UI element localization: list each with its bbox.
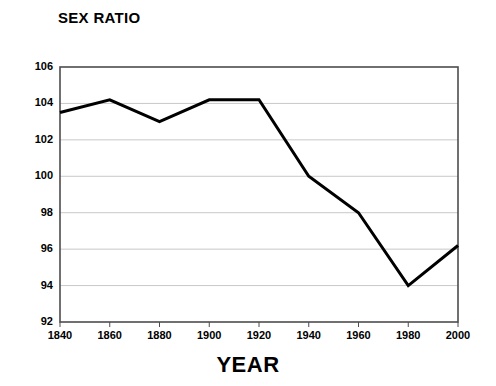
y-tick-label: 104 [19, 96, 53, 108]
x-axis-title: YEAR [0, 352, 496, 378]
x-tick-label: 2000 [436, 329, 480, 341]
data-line-series [60, 100, 458, 286]
x-tick-label: 1940 [287, 329, 331, 341]
x-tick-label: 1960 [337, 329, 381, 341]
series-line-sex-ratio [60, 100, 458, 286]
x-tick-label: 1880 [138, 329, 182, 341]
x-tick-label: 1840 [38, 329, 82, 341]
y-tick-label: 96 [19, 242, 53, 254]
x-tick-label: 1860 [88, 329, 132, 341]
x-tick-label: 1920 [237, 329, 281, 341]
sex-ratio-line-chart: SEX RATIO 10610410210098969492 184018601… [0, 0, 496, 386]
y-tick-label: 94 [19, 279, 53, 291]
gridlines [60, 103, 458, 285]
x-tick-label: 1900 [187, 329, 231, 341]
y-tick-label: 100 [19, 169, 53, 181]
y-tick-label: 98 [19, 206, 53, 218]
y-tick-label: 92 [19, 315, 53, 327]
y-tick-label: 106 [19, 60, 53, 72]
x-tick-label: 1980 [386, 329, 430, 341]
y-tick-label: 102 [19, 133, 53, 145]
